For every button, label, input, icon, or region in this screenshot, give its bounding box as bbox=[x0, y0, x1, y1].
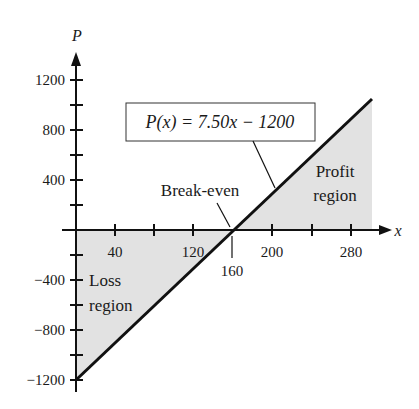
break-even-chart: 40 120 200 280 x 1200 800 400 −400 −800 … bbox=[0, 0, 419, 409]
x-axis-arrow-icon bbox=[379, 225, 392, 235]
x-axis-label: x bbox=[393, 222, 401, 239]
break-even-value-label: 160 bbox=[221, 263, 244, 279]
equation-label: P(x) = 7.50x − 1200 bbox=[145, 112, 295, 133]
x-tick-label-40: 40 bbox=[108, 244, 123, 260]
y-tick-label-400: 400 bbox=[43, 172, 66, 188]
y-tick-label-800: 800 bbox=[43, 122, 66, 138]
y-tick-label-neg1200: −1200 bbox=[27, 372, 65, 388]
x-tick-label-280: 280 bbox=[340, 244, 363, 260]
loss-region-label-line2: region bbox=[89, 296, 133, 315]
x-tick-label-120: 120 bbox=[182, 244, 205, 260]
equation-box: P(x) = 7.50x − 1200 bbox=[126, 103, 315, 141]
break-even-label: Break-even bbox=[161, 181, 240, 200]
y-axis-arrow-icon bbox=[71, 52, 81, 66]
y-axis: 1200 800 400 −400 −800 −1200 P bbox=[27, 27, 83, 392]
break-even-leader bbox=[217, 203, 230, 227]
y-tick-label-neg800: −800 bbox=[34, 322, 65, 338]
profit-region-label-line2: region bbox=[313, 186, 357, 205]
y-axis-label: P bbox=[71, 27, 82, 44]
loss-region-label-line1: Loss bbox=[89, 271, 121, 290]
x-tick-label-200: 200 bbox=[261, 244, 284, 260]
y-tick-label-1200: 1200 bbox=[35, 72, 65, 88]
profit-region-label-line1: Profit bbox=[316, 162, 355, 181]
y-tick-label-neg400: −400 bbox=[34, 272, 65, 288]
equation-leader bbox=[253, 141, 275, 188]
